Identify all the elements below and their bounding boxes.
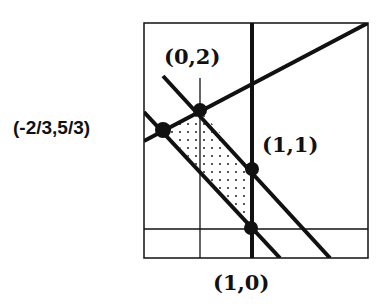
- label-1-0: (1,0): [213, 270, 269, 295]
- vertex-1-1: [245, 162, 259, 176]
- label-0-2: (0,2): [164, 44, 220, 69]
- label-m23-53: (-2/3,5/3): [13, 117, 90, 139]
- line-rising: [144, 23, 368, 141]
- vertex-0-2: [193, 103, 207, 117]
- vertex-m23-53: [155, 122, 171, 138]
- vertex-1-0: [244, 221, 258, 235]
- label-1-1: (1,1): [262, 132, 318, 157]
